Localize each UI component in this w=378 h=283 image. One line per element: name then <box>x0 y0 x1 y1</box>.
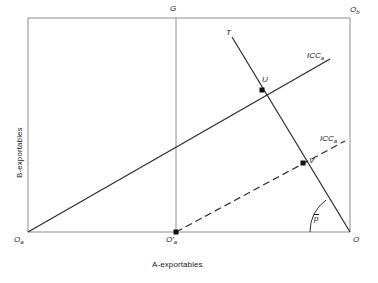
label-point-u: U <box>262 76 268 84</box>
label-origin-a: Oa <box>14 236 24 245</box>
label-point-g: G <box>170 5 176 13</box>
label-icc-a-solid-subscript: a <box>321 55 324 61</box>
label-icc-a-dashed-text: ICC <box>320 134 334 143</box>
icc-a-solid-line <box>28 59 330 232</box>
box-diagram-figure: Oa Ob O′a O G T U V ICCa ICCa p A-export… <box>0 0 378 283</box>
label-point-t: T <box>226 29 231 37</box>
x-axis-label: A-exportables <box>152 260 203 269</box>
label-icc-a-dashed-subscript: a <box>334 138 337 144</box>
label-origin-a-shifted-subscript: a <box>174 239 177 245</box>
label-origin-a-shifted: O′a <box>166 236 177 245</box>
label-icc-a-dashed: ICCa <box>320 135 337 144</box>
icc-a-dashed-line <box>176 141 345 232</box>
origin-a-shifted-marker <box>174 230 179 235</box>
label-origin-a-subscript: a <box>20 239 23 245</box>
box-frame <box>28 18 350 232</box>
point-v-marker <box>301 161 306 166</box>
label-origin: O <box>353 236 359 244</box>
label-origin-b-subscript: b <box>356 9 359 15</box>
y-axis-label: B-exportables <box>15 127 24 178</box>
label-price-ratio-text: p <box>314 215 318 223</box>
label-price-ratio: p <box>314 215 318 223</box>
label-origin-b: Ob <box>350 6 360 15</box>
point-u-marker <box>260 88 265 93</box>
label-icc-a-solid-text: ICC <box>307 51 321 60</box>
label-point-v: V <box>309 157 314 165</box>
label-icc-a-solid: ICCa <box>307 52 324 61</box>
